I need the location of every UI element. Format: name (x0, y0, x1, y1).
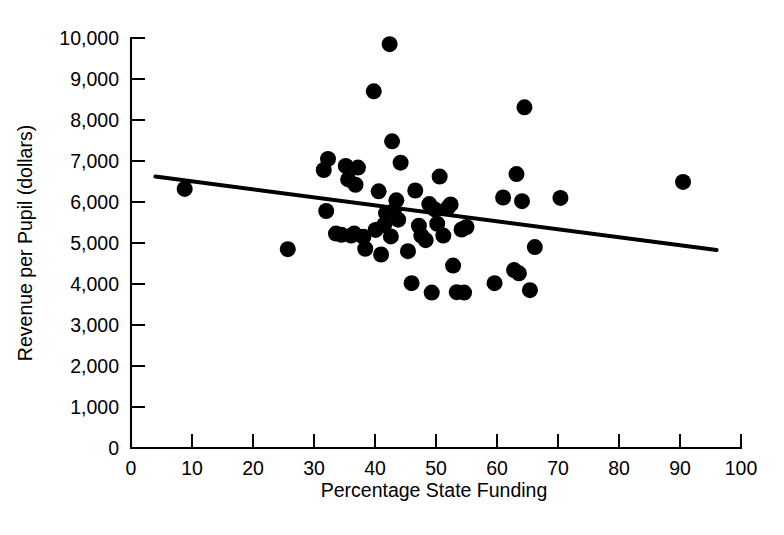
data-point (373, 246, 389, 262)
data-point (383, 228, 399, 244)
x-axis-title: Percentage State Funding (321, 479, 548, 501)
y-tick-label-0: 0 (108, 437, 119, 459)
data-point (388, 192, 404, 208)
x-tick-label-50: 50 (425, 457, 447, 479)
data-point (280, 241, 296, 257)
y-axis-title: Revenue per Pupil (dollars) (14, 125, 36, 361)
y-tick-label-4000: 4,000 (70, 273, 119, 295)
data-point (511, 265, 527, 281)
x-tick-label-80: 80 (608, 457, 630, 479)
y-tick-label-10000: 10,000 (59, 27, 119, 49)
y-tick-label-1000: 1,000 (70, 396, 119, 418)
y-tick-label-9000: 9,000 (70, 68, 119, 90)
data-point (418, 232, 434, 248)
data-point (371, 183, 387, 199)
x-tick-label-100: 100 (725, 457, 758, 479)
data-point (366, 83, 382, 99)
y-axis-ticks (131, 38, 145, 407)
x-tick-label-40: 40 (364, 457, 386, 479)
x-tick-label-70: 70 (547, 457, 569, 479)
data-point (400, 243, 416, 259)
y-tick-label-5000: 5,000 (70, 232, 119, 254)
y-axis-tick-labels: 01,0002,0003,0004,0005,0006,0007,0008,00… (59, 27, 119, 459)
data-point (527, 239, 543, 255)
data-point (552, 190, 568, 206)
data-point (456, 285, 472, 301)
x-tick-label-30: 30 (303, 457, 325, 479)
data-point (516, 99, 532, 115)
data-point (382, 36, 398, 52)
x-tick-label-0: 0 (126, 457, 137, 479)
data-point (427, 201, 443, 217)
data-point (675, 174, 691, 190)
data-point (350, 160, 366, 176)
x-tick-label-10: 10 (181, 457, 203, 479)
data-point (443, 196, 459, 212)
y-tick-label-8000: 8,000 (70, 109, 119, 131)
data-point (393, 155, 409, 171)
data-point (522, 282, 538, 298)
data-point (435, 228, 451, 244)
y-tick-label-2000: 2,000 (70, 355, 119, 377)
data-point (404, 275, 420, 291)
data-point (445, 258, 461, 274)
data-point (177, 181, 193, 197)
data-point (514, 193, 530, 209)
data-point (487, 275, 503, 291)
x-tick-label-20: 20 (242, 457, 264, 479)
y-tick-label-6000: 6,000 (70, 191, 119, 213)
data-point (347, 177, 363, 193)
x-tick-label-60: 60 (486, 457, 508, 479)
data-point (357, 241, 373, 257)
x-axis-tick-labels: 0102030405060708090100 (126, 457, 758, 479)
data-point (424, 285, 440, 301)
scatter-plot-figure: 01,0002,0003,0004,0005,0006,0007,0008,00… (0, 0, 784, 535)
y-tick-label-7000: 7,000 (70, 150, 119, 172)
x-axis-ticks (192, 434, 741, 448)
x-tick-label-90: 90 (669, 457, 691, 479)
data-point (509, 166, 525, 182)
data-point (459, 219, 475, 235)
scatter-data-points (177, 36, 691, 300)
data-point (384, 133, 400, 149)
y-tick-label-3000: 3,000 (70, 314, 119, 336)
data-point (320, 151, 336, 167)
data-point (318, 203, 334, 219)
data-point (407, 183, 423, 199)
data-point (495, 189, 511, 205)
data-point (390, 212, 406, 228)
chart-canvas: 01,0002,0003,0004,0005,0006,0007,0008,00… (0, 0, 784, 535)
data-point (432, 169, 448, 185)
